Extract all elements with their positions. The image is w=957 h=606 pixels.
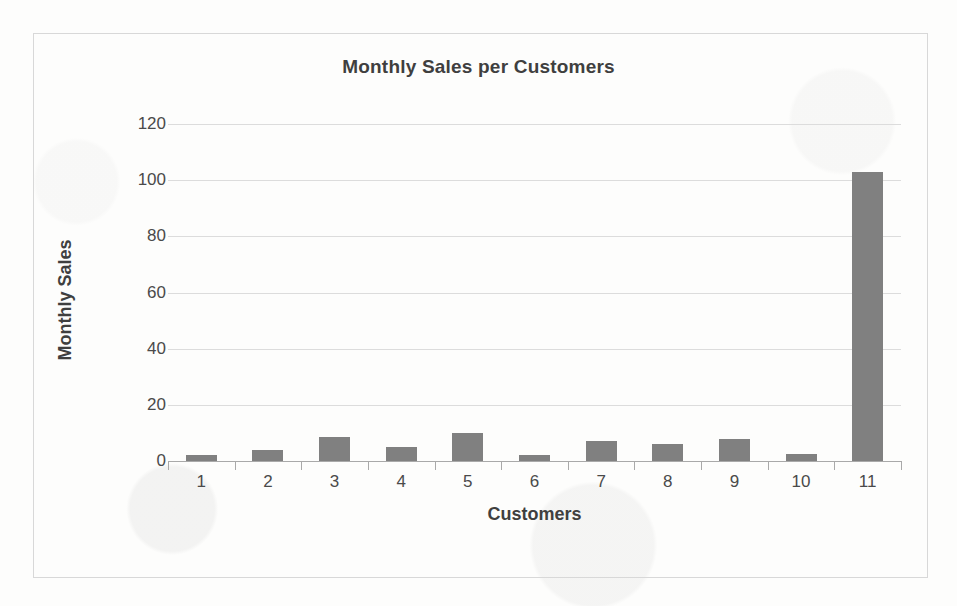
bar xyxy=(786,454,817,461)
bar xyxy=(319,437,350,461)
x-tick xyxy=(501,461,568,470)
x-tick xyxy=(368,461,435,470)
x-tick xyxy=(634,461,701,470)
bar xyxy=(586,441,617,461)
x-tick-mark xyxy=(634,461,635,470)
x-category-label: 9 xyxy=(701,472,768,492)
x-tick-mark xyxy=(834,461,835,470)
x-tick xyxy=(834,461,901,470)
bar-slot xyxy=(168,124,235,461)
bar-slot xyxy=(501,124,568,461)
y-tick-label: 0 xyxy=(106,451,166,471)
bar-slot xyxy=(768,124,835,461)
x-category-label: 2 xyxy=(235,472,302,492)
y-tick-label: 120 xyxy=(106,114,166,134)
y-tick-label: 80 xyxy=(106,226,166,246)
x-tick-mark xyxy=(768,461,769,470)
x-tick xyxy=(435,461,502,470)
x-tick-mark xyxy=(901,461,902,470)
x-tick xyxy=(701,461,768,470)
x-tick-mark xyxy=(568,461,569,470)
x-tick-mark xyxy=(235,461,236,470)
x-tick xyxy=(168,461,235,470)
x-tick xyxy=(301,461,368,470)
x-category-label: 6 xyxy=(501,472,568,492)
x-tick xyxy=(901,461,957,470)
x-tick-mark xyxy=(701,461,702,470)
x-category-label: 4 xyxy=(368,472,435,492)
x-category-label: 3 xyxy=(301,472,368,492)
bar xyxy=(252,450,283,461)
bar-slot xyxy=(301,124,368,461)
x-axis-title: Customers xyxy=(168,504,901,525)
x-tick-mark xyxy=(301,461,302,470)
x-category-label: 11 xyxy=(834,472,901,492)
bar-slot xyxy=(568,124,635,461)
y-axis-title-label: Monthly Sales xyxy=(55,239,76,360)
x-tick-mark xyxy=(368,461,369,470)
y-axis-title: Monthly Sales xyxy=(52,210,78,390)
x-category-label: 8 xyxy=(634,472,701,492)
bar xyxy=(652,444,683,461)
x-tick-mark xyxy=(435,461,436,470)
x-category-label: 5 xyxy=(435,472,502,492)
x-tick-mark xyxy=(501,461,502,470)
bar xyxy=(452,433,483,461)
x-category-label: 10 xyxy=(768,472,835,492)
bar-slot xyxy=(634,124,701,461)
y-tick-label: 100 xyxy=(106,170,166,190)
x-tick xyxy=(235,461,302,470)
bar-slot xyxy=(235,124,302,461)
bar-series xyxy=(168,124,901,461)
x-tick-mark xyxy=(168,461,169,470)
bar-slot xyxy=(701,124,768,461)
y-tick-label: 40 xyxy=(106,339,166,359)
bar-slot xyxy=(435,124,502,461)
bar-slot xyxy=(368,124,435,461)
bar xyxy=(852,172,883,461)
y-tick-label: 20 xyxy=(106,395,166,415)
y-tick-label: 60 xyxy=(106,283,166,303)
bar xyxy=(386,447,417,461)
x-category-label: 1 xyxy=(168,472,235,492)
x-tick xyxy=(568,461,635,470)
bar xyxy=(719,439,750,461)
x-category-label: 7 xyxy=(568,472,635,492)
bar-slot xyxy=(834,124,901,461)
chart-title: Monthly Sales per Customers xyxy=(0,56,957,78)
x-tick xyxy=(768,461,835,470)
